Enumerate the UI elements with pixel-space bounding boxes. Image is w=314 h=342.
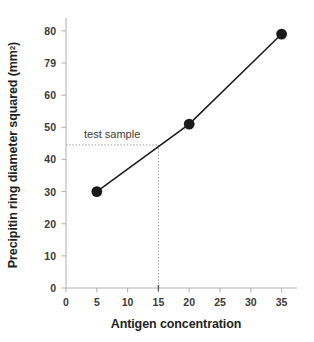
x-axis-tick-label: 30 bbox=[239, 296, 263, 308]
y-axis-tick-label: 10 bbox=[30, 250, 56, 262]
x-axis-tick-label: 25 bbox=[208, 296, 232, 308]
y-axis-tick-label: 80 bbox=[30, 25, 56, 37]
annotation-label: test sample bbox=[84, 128, 140, 140]
x-axis-tick-label: 35 bbox=[270, 296, 294, 308]
data-point-marker bbox=[91, 186, 102, 197]
y-axis-tick-label: 0 bbox=[30, 282, 56, 294]
y-axis-tick-label: 20 bbox=[30, 218, 56, 230]
x-axis-tick-label: 10 bbox=[116, 296, 140, 308]
data-series-layer bbox=[91, 29, 287, 197]
x-axis-tick-label: 0 bbox=[54, 296, 78, 308]
data-point-marker bbox=[276, 29, 287, 40]
x-axis-tick-label: 20 bbox=[177, 296, 201, 308]
guide-lines bbox=[66, 145, 158, 291]
x-axis-tick-label: 5 bbox=[85, 296, 109, 308]
y-axis-tick-label: 60 bbox=[30, 89, 56, 101]
y-axis-tick-label: 50 bbox=[30, 121, 56, 133]
data-point-marker bbox=[184, 119, 195, 130]
series-line bbox=[97, 34, 282, 192]
y-axis-tick-label: 79 bbox=[30, 57, 56, 69]
axis-layer bbox=[62, 18, 298, 293]
y-axis-tick-label: 40 bbox=[30, 153, 56, 165]
chart-figure: Precipitin ring diameter squared (mm2) A… bbox=[0, 0, 314, 342]
y-axis-tick-label: 30 bbox=[30, 186, 56, 198]
x-axis-tick-label: 15 bbox=[146, 296, 170, 308]
